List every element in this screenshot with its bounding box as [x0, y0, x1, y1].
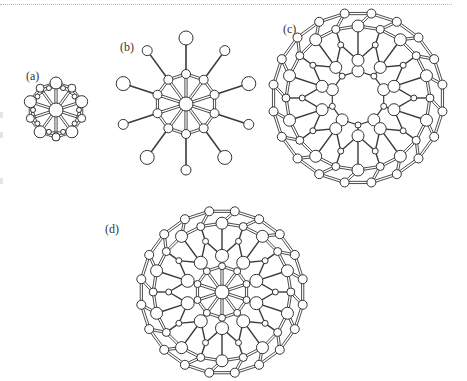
structure-a: [24, 77, 87, 141]
structure-b: [116, 31, 256, 175]
structure-d: [137, 207, 307, 377]
molecular-structures-figure: [0, 0, 467, 381]
structure-c: [269, 9, 447, 187]
